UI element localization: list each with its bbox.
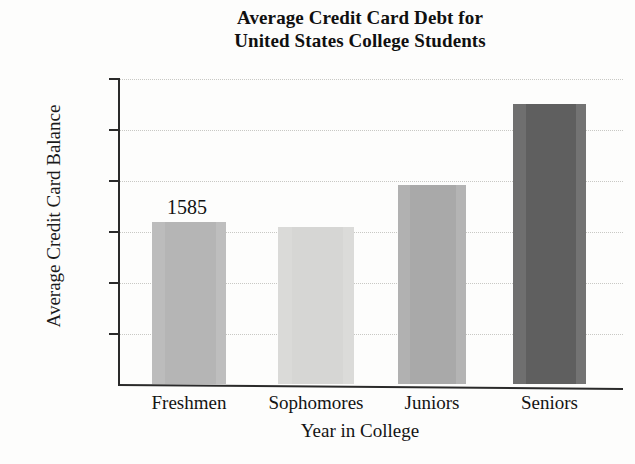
bar-highlight-left (278, 227, 292, 384)
bar-seniors (513, 104, 586, 385)
plot-area (118, 79, 623, 385)
chart-title-line-1: Average Credit Card Debt for (150, 6, 570, 29)
bar-juniors (398, 185, 466, 384)
bar-highlight-right (456, 185, 466, 384)
bar-highlight-right (216, 222, 226, 384)
gridline (120, 79, 623, 81)
bar-highlight-left (398, 185, 410, 384)
bar-sophomores (278, 227, 354, 384)
bar-highlight-right (576, 104, 586, 385)
bar-value-label: 1585 (167, 196, 207, 219)
bar-highlight-right (343, 227, 354, 384)
chart-title-line-2: United States College Students (150, 29, 570, 52)
bar-highlight-left (513, 104, 526, 385)
x-axis-label-seniors: Seniors (470, 392, 630, 414)
y-axis-title: Average Credit Card Balance (43, 66, 65, 366)
chart-figure: Average Credit Card Debt for United Stat… (0, 0, 635, 464)
bar-freshmen (152, 222, 226, 384)
y-axis-line (118, 79, 120, 385)
chart-title: Average Credit Card Debt for United Stat… (150, 6, 570, 52)
x-axis-line (118, 384, 623, 390)
x-axis-title: Year in College (150, 420, 570, 442)
bar-highlight-left (152, 222, 165, 384)
